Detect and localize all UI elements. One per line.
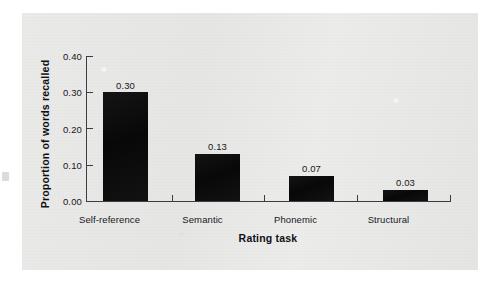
bar-value-semantic: 0.13 — [187, 141, 248, 152]
x-axis-tick-3 — [357, 195, 358, 201]
x-axis-tick-2 — [264, 195, 265, 201]
y-axis-tick-3 — [87, 92, 93, 93]
bar-value-phonemic: 0.07 — [281, 163, 342, 174]
y-axis-tick-2 — [87, 128, 93, 129]
y-tick-label-0: 0.00 — [48, 196, 82, 207]
bar-phonemic — [289, 176, 334, 201]
y-tick-label-1: 0.10 — [48, 160, 82, 171]
y-axis-tick-1 — [87, 165, 93, 166]
x-axis-line — [86, 201, 451, 202]
y-axis-tick-4 — [87, 56, 93, 57]
y-tick-label-3: 0.30 — [48, 87, 82, 98]
y-axis-tick-0 — [87, 201, 93, 202]
scan-artifact — [2, 172, 9, 181]
x-category-label-phonemic: Phonemic — [249, 214, 342, 225]
bar-value-structural: 0.03 — [375, 177, 436, 188]
plot-area: 0.30 0.13 0.07 0.03 — [86, 56, 450, 201]
x-category-label-self-reference: Self-reference — [63, 214, 156, 225]
bar-self-reference — [103, 92, 148, 201]
figure-root: 0.00 0.10 0.20 0.30 0.40 Proportion of w… — [0, 0, 492, 292]
y-axis-line — [86, 56, 87, 202]
x-axis-tick-1 — [172, 195, 173, 201]
x-axis-title: Rating task — [86, 232, 450, 244]
x-category-label-structural: Structural — [342, 214, 435, 225]
bar-semantic — [195, 154, 240, 201]
y-axis-title: Proportion of words recalled — [39, 59, 51, 209]
y-tick-label-4: 0.40 — [48, 51, 82, 62]
bar-value-self-reference: 0.30 — [95, 80, 156, 91]
x-axis-tick-4 — [450, 195, 451, 201]
bar-structural — [383, 190, 428, 201]
y-tick-label-2: 0.20 — [48, 124, 82, 135]
x-category-label-semantic: Semantic — [156, 214, 249, 225]
